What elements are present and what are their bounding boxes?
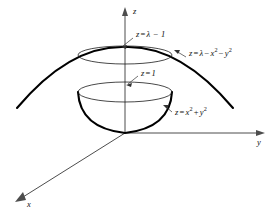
label-lower-plane: z=1 (141, 69, 156, 78)
label-lower-surface-equals: = (179, 107, 186, 117)
y-axis-label: y (257, 138, 261, 147)
label-lower-surface-term2-exponent: 2 (204, 105, 207, 112)
upper-surface-leader-arrow (174, 50, 180, 54)
label-upper-surface-equals: = (193, 48, 200, 58)
label-upper-plane-lhs: z (136, 29, 140, 39)
label-upper-plane-equals: = (140, 29, 147, 39)
z-axis-label: z (133, 7, 136, 16)
x-axis-line (23, 133, 125, 197)
label-lower-plane-rhs: 1 (152, 68, 156, 78)
label-lower-surface-plus: + (193, 107, 200, 117)
lower-plane-leader-line (128, 76, 138, 84)
label-upper-surface: z=λ−x2−y2 (189, 49, 232, 58)
x-axis-arrowhead (15, 192, 26, 202)
z-axis-arrowhead (122, 7, 128, 16)
label-upper-surface-lhs: z (189, 48, 193, 58)
y-axis-arrowhead (256, 130, 265, 136)
label-lower-plane-lhs: z (141, 68, 145, 78)
label-upper-surface-term2-exponent: 2 (229, 46, 232, 53)
label-upper-plane-rhs: λ − 1 (147, 29, 166, 39)
label-upper-surface-minus-2: − (218, 48, 225, 58)
label-lower-surface-lhs: z (175, 107, 179, 117)
x-axis-label: x (27, 200, 31, 209)
figure-canvas: z=λ − 1 z=λ−x2−y2 z=1 z=x2+y2 z y x (0, 0, 276, 216)
label-upper-plane: z=λ − 1 (136, 30, 165, 39)
label-lower-plane-equals: = (145, 68, 152, 78)
label-lower-surface: z=x2+y2 (175, 108, 207, 117)
